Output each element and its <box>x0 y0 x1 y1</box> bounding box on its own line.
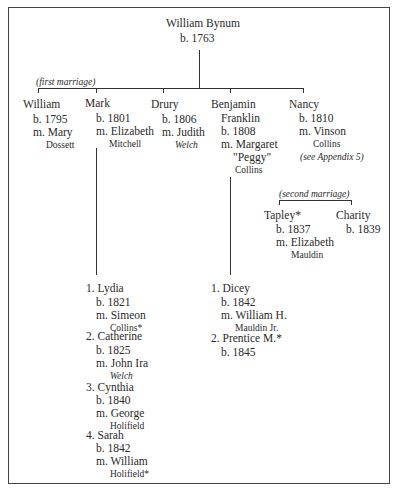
mark-child-3-married: m. George <box>96 407 144 419</box>
mark-child-1-married: m. Simeon <box>96 309 146 321</box>
benjamin-child-1-born: b. 1842 <box>221 296 256 308</box>
child-mark-married: m. Elizabeth <box>96 125 154 137</box>
mark-child-1-label: 1. Lydia <box>86 282 124 294</box>
child-nancy-married: m. Vinson <box>299 125 346 137</box>
sibling-bar <box>38 88 304 89</box>
tick-charity <box>351 200 352 205</box>
benjamin-child-2-born: b. 1845 <box>221 346 256 358</box>
mark-child-2-label: 2. Catherine <box>86 330 142 342</box>
child-william-spouse: Dossett <box>46 139 75 151</box>
root-born: b. 1763 <box>180 32 215 44</box>
root-name: William Bynum <box>166 17 240 29</box>
tick-tapley <box>279 200 280 205</box>
child-tapley-born: b. 1837 <box>276 223 311 235</box>
second-marriage-bar <box>279 200 352 201</box>
child-mark-born: b. 1801 <box>96 112 131 124</box>
mark-child-1-born: b. 1821 <box>96 296 131 308</box>
child-william-name: William <box>23 98 60 110</box>
benjamin-child-1-label: 1. Dicey <box>211 282 250 294</box>
mark-child-3-born: b. 1840 <box>96 394 131 406</box>
child-drury-married: m. Judith <box>162 126 205 138</box>
child-nancy-spouse: Collins <box>313 138 340 150</box>
child-nancy-note: (see Appendix 5) <box>300 151 364 163</box>
child-tapley-married: m. Elizabeth <box>276 236 334 248</box>
child-tapley-name: Tapley* <box>264 209 301 221</box>
child-benjamin-spouse: Collins <box>235 164 262 176</box>
child-drury-spouse: Welch <box>175 139 198 151</box>
benjamin-descendant-connector <box>230 177 231 275</box>
tick-benjamin <box>230 88 231 93</box>
mark-child-4-label: 4. Sarah <box>86 429 124 441</box>
tick-drury <box>163 88 164 93</box>
child-benjamin-nickname: "Peggy" <box>233 151 271 163</box>
mark-child-4-spouse: Holifield* <box>110 468 149 480</box>
mark-child-4-born: b. 1842 <box>96 442 131 454</box>
mark-child-2-born: b. 1825 <box>96 344 131 356</box>
mark-child-4-married: m. William <box>96 455 148 467</box>
child-nancy-born: b. 1810 <box>299 112 334 124</box>
root-connector <box>199 50 200 88</box>
benjamin-child-1-married: m. William H. <box>221 309 287 321</box>
benjamin-child-2-label: 2. Prentice M.* <box>211 332 282 344</box>
child-benjamin-name: Benjamin <box>211 98 256 110</box>
child-charity-name: Charity <box>336 209 371 221</box>
child-tapley-spouse: Mauldin <box>291 249 323 261</box>
child-mark-spouse: Mitchell <box>109 138 141 150</box>
child-benjamin-married: m. Margaret <box>221 138 278 150</box>
mark-child-2-married: m. John Ira <box>96 357 148 369</box>
second-marriage-label: (second marriage) <box>279 188 349 200</box>
child-benjamin-born: b. 1808 <box>221 125 256 137</box>
child-drury-born: b. 1806 <box>162 113 197 125</box>
child-mark-name: Mark <box>85 97 110 109</box>
mark-descendant-connector <box>96 148 97 275</box>
tick-william <box>38 88 39 93</box>
child-charity-born: b. 1839 <box>346 223 381 235</box>
child-william-married: m. Mary <box>33 126 73 138</box>
child-nancy-name: Nancy <box>289 98 319 110</box>
child-benjamin-name2: Franklin <box>221 112 260 124</box>
child-drury-name: Drury <box>151 98 178 110</box>
tick-mark <box>96 88 97 93</box>
child-william-born: b. 1795 <box>33 113 68 125</box>
mark-child-3-label: 3. Cynthia <box>86 381 134 393</box>
first-marriage-label: (first marriage) <box>36 76 95 88</box>
tick-nancy <box>303 88 304 93</box>
